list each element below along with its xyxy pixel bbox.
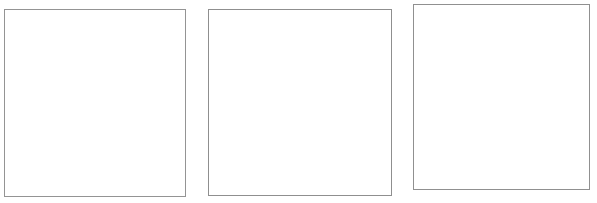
- frames-canvas: [0, 0, 597, 203]
- frame-panel-2-content: [209, 10, 391, 195]
- frame-panel-1-content: [5, 10, 185, 196]
- frame-panel-1[interactable]: [4, 9, 186, 197]
- frame-panel-2[interactable]: [208, 9, 392, 196]
- frame-panel-3-content: [414, 5, 589, 189]
- frame-panel-3[interactable]: [413, 4, 590, 190]
